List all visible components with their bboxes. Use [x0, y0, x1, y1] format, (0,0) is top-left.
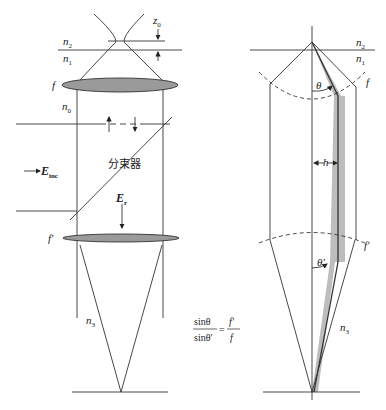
- label-E-inc: Einc: [40, 164, 58, 180]
- label-n1-right: n1: [356, 52, 366, 67]
- svg-text:sinθ: sinθ: [194, 316, 211, 327]
- label-h: h: [323, 156, 329, 168]
- label-theta-prime: θ': [317, 256, 325, 268]
- left-diagram: [16, 14, 182, 392]
- optical-diagram: z0 n2 n1 f n0 Einc 分束器 Er f' n3 sinθ sin…: [0, 0, 386, 410]
- right-diagram: [250, 26, 375, 400]
- label-beam-splitter: 分束器: [108, 158, 141, 171]
- label-theta: θ: [316, 79, 322, 91]
- ray-shading: [312, 42, 345, 392]
- label-f-prime-left: f': [48, 232, 54, 244]
- label-f-left: f: [52, 79, 57, 91]
- label-n2-right: n2: [356, 36, 366, 51]
- label-n2-left: n2: [63, 35, 73, 50]
- svg-text:sinθ': sinθ': [194, 332, 212, 343]
- label-n3-left: n3: [86, 314, 96, 329]
- svg-text:f': f': [229, 316, 235, 327]
- focus-beam-left: [80, 14, 116, 80]
- svg-text:f: f: [230, 332, 234, 343]
- label-n1-left: n1: [63, 52, 73, 67]
- label-z0: z0: [152, 14, 161, 29]
- svg-text:=: =: [219, 324, 225, 335]
- objective-lens-f: [62, 78, 178, 92]
- lens-f-prime: [63, 234, 179, 242]
- label-n0: n0: [62, 100, 72, 115]
- equation-sine-ratio: sinθ sinθ' = f' f: [193, 316, 240, 343]
- label-f-prime-right: f': [364, 239, 370, 251]
- label-n3-right: n3: [340, 321, 350, 336]
- label-f-right: f: [366, 76, 371, 88]
- label-E-r: Er: [115, 191, 127, 207]
